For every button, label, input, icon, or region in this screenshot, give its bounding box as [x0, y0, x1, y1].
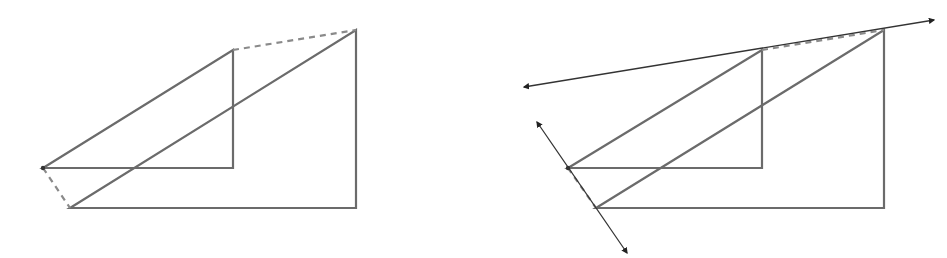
small-triangle	[568, 50, 762, 168]
line-with-arrows	[524, 20, 934, 87]
diagram-canvas	[0, 0, 947, 258]
panel-left	[41, 30, 356, 208]
vertex-point	[41, 166, 45, 170]
dashed-segment	[233, 30, 356, 50]
large-triangle	[596, 30, 884, 208]
small-triangle	[43, 50, 233, 168]
dashed-segment	[43, 168, 70, 208]
line-with-arrows	[537, 122, 627, 253]
vertex-point	[566, 166, 570, 170]
dashed-segment	[762, 30, 884, 50]
panel-right	[524, 20, 934, 253]
large-triangle	[70, 30, 356, 208]
